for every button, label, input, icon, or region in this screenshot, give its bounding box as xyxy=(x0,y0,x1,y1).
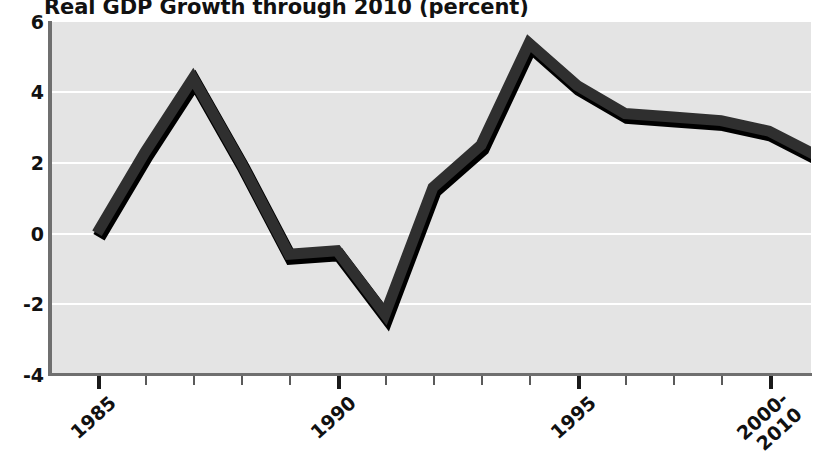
x-tick-1990 xyxy=(337,376,341,389)
x-tick-1997 xyxy=(673,376,675,385)
x-tick-1992 xyxy=(433,376,435,385)
y-tick-label-neg4: -4 xyxy=(2,366,44,385)
x-tick-1995 xyxy=(577,376,581,389)
x-tick-label-2000-2010: 2000- 2010 xyxy=(699,388,806,451)
x-tick-1986 xyxy=(145,376,147,385)
x-tick-label-1995: 1995 xyxy=(507,392,600,451)
x-tick-1996 xyxy=(625,376,627,385)
y-axis-tick-labels: 6 4 2 0 -2 -4 xyxy=(0,0,44,451)
x-tick-1988 xyxy=(241,376,243,385)
x-tick-1993 xyxy=(481,376,483,385)
x-tick-1987 xyxy=(193,376,195,385)
series-gdp-growth xyxy=(51,22,811,374)
gdp-growth-line-chart: Real GDP Growth through 2010 (percent) 6… xyxy=(0,0,832,451)
x-tick-1989 xyxy=(289,376,291,385)
plot-area xyxy=(51,22,811,374)
y-tick-label-2: 2 xyxy=(2,154,44,173)
x-tick-1998 xyxy=(721,376,723,385)
y-axis-line xyxy=(48,21,52,375)
y-tick-label-neg2: -2 xyxy=(2,295,44,314)
y-tick-label-4: 4 xyxy=(2,83,44,102)
y-tick-label-0: 0 xyxy=(2,225,44,244)
x-tick-1994 xyxy=(529,376,531,385)
series-line-shadow xyxy=(99,47,811,318)
chart-title: Real GDP Growth through 2010 (percent) xyxy=(44,0,529,18)
x-tick-label-1990: 1990 xyxy=(267,392,360,451)
x-tick-2000-2010 xyxy=(769,376,773,389)
x-axis-line xyxy=(48,373,812,376)
x-tick-1991 xyxy=(385,376,387,385)
x-tick-1985 xyxy=(97,376,101,389)
y-tick-label-6: 6 xyxy=(2,13,44,32)
